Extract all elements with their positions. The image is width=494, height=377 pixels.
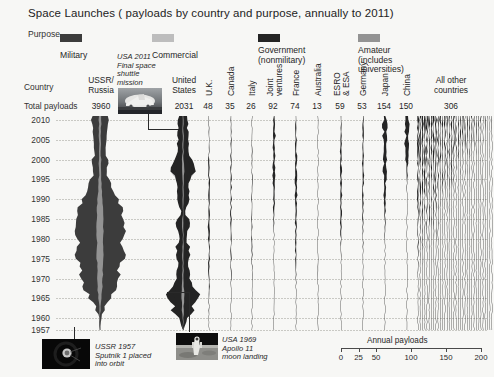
col-ussr-line1: USSR/ [88, 75, 114, 85]
column-total-ussr-russia: 3960 [78, 101, 124, 111]
legend-label-military: Military [60, 50, 87, 60]
row-label-total-payloads: Total payloads [24, 101, 78, 111]
col-japan-label: Japan [380, 73, 390, 96]
scale-tick-25 [359, 348, 360, 352]
row-label-country: Country [24, 82, 53, 92]
scale-tick-0 [341, 348, 342, 352]
column-total-uk: 48 [199, 101, 217, 111]
scale-tick-label-100: 100 [401, 353, 421, 362]
callout-caption-sputnik: USSR 1957 Sputnik 1 placed into orbit [95, 343, 151, 369]
col-esro-line2: & ESA [341, 71, 351, 96]
col-canada-label: Canada [226, 67, 236, 96]
legend-swatch-military [60, 34, 82, 42]
column-header-italy: Italy [248, 66, 257, 96]
scale-tick-100 [411, 348, 412, 352]
callout-apollo-line3: moon landing [222, 352, 268, 361]
col-australia-label: Australia [313, 63, 323, 96]
col-uk-label: U.K. [204, 80, 214, 96]
column-total-all-other-countries: 306 [424, 101, 478, 111]
scale-tick-50 [376, 348, 377, 352]
page-title: Space Launches ( payloads by country and… [28, 7, 394, 19]
column-header-uk: U.K. [205, 62, 214, 96]
callout-caption-apollo: USA 1969 Apollo 11 moon landing [222, 336, 268, 362]
column-header-japan: Japan [381, 62, 390, 96]
column-header-esro-esa: ESRO& ESA [333, 58, 351, 96]
col-china-label: China [402, 74, 412, 96]
column-header-ussr-russia: USSR/ Russia [78, 76, 124, 95]
column-header-canada: Canada [227, 56, 236, 96]
scale-tick-label-50: 50 [366, 353, 386, 362]
legend-swatch-commercial [152, 34, 174, 42]
scale-key-title: Annual payloads [367, 336, 428, 345]
column-header-germany: Germany [359, 54, 368, 96]
col-joint-line2: ventures [274, 64, 284, 96]
column-header-france: France [292, 60, 301, 96]
col-italy-label: Italy [247, 81, 257, 96]
stream-graph [0, 112, 494, 340]
callout-sputnik-line3: into orbit [95, 359, 124, 368]
column-total-china: 150 [397, 101, 415, 111]
callout-leader-sputnik-vertical [74, 327, 75, 339]
column-total-france: 74 [286, 101, 304, 111]
column-total-italy: 26 [242, 101, 260, 111]
column-total-joint-ventures: 92 [264, 101, 282, 111]
apollo-moon-landing-photo [176, 333, 218, 360]
col-other-line2: countries [434, 85, 468, 95]
col-ussr-line2: Russia [88, 85, 114, 95]
column-header-united-states: United States [163, 76, 205, 95]
column-header-australia: Australia [314, 52, 323, 96]
scale-tick-label-200: 200 [471, 353, 491, 362]
col-germany-label: Germany [358, 62, 368, 96]
col-us-line2: States [172, 85, 196, 95]
legend-swatch-amateur [358, 34, 380, 42]
space-shuttle-photo [118, 88, 162, 114]
chart-plot-area: 2010200520001995199019851980197519701965… [0, 112, 494, 340]
column-total-esro-esa: 59 [331, 101, 349, 111]
legend-swatch-government [258, 34, 280, 42]
column-total-germany: 53 [353, 101, 371, 111]
legend-title: Purpose [28, 29, 60, 39]
column-header-all-other-countries: All other countries [424, 76, 478, 95]
scale-tick-200 [481, 348, 482, 352]
legend-item-commercial: Commercial [152, 28, 198, 64]
column-header-china: China [403, 64, 412, 96]
col-france-label: France [291, 70, 301, 96]
scale-tick-label-150: 150 [436, 353, 456, 362]
scale-key: Annual payloads 02550100150200 [339, 336, 489, 370]
callout-leader-apollo-vertical [189, 292, 190, 332]
column-total-japan: 154 [375, 101, 393, 111]
infographic-root: Space Launches ( payloads by country and… [0, 0, 494, 377]
column-total-canada: 35 [221, 101, 239, 111]
legend-item-military: Military [60, 28, 87, 64]
column-total-australia: 13 [308, 101, 326, 111]
sputnik-photo [42, 339, 90, 369]
legend-label-commercial: Commercial [152, 50, 198, 60]
column-header-joint-ventures: Jointventures [266, 52, 284, 96]
callout-leader-apollo-horizontal [167, 292, 190, 293]
col-other-line1: All other [436, 75, 467, 85]
scale-tick-150 [446, 348, 447, 352]
col-us-line1: United [172, 75, 196, 85]
